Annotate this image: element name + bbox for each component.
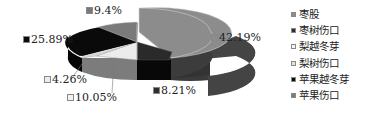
side-pear-wound: [82, 58, 137, 80]
side-jujube-wound: [137, 60, 171, 80]
data-label-jujube-spur: 42.19%: [211, 32, 261, 44]
legend-item-apple-wound: 苹果伤口: [291, 87, 349, 103]
legend-swatch: [291, 61, 296, 66]
chart-legend: 枣股 枣树伤口 梨越冬芽 梨树伤口 苹果越冬芽 苹果伤口: [291, 6, 349, 103]
legend-swatch: [291, 28, 296, 33]
data-label-jujube-wound: 8.21%: [153, 85, 196, 97]
legend-item-jujube-spur: 枣股: [291, 6, 349, 22]
pie-chart: 9.4% 25.89% 42.19% 4.26% 10.05% 8.21% 枣股…: [0, 0, 365, 114]
legend-item-pear-bud: 梨越冬芽: [291, 38, 349, 54]
data-label-pear-bud: 10.05%: [67, 92, 117, 104]
legend-item-jujube-wound: 枣树伤口: [291, 22, 349, 38]
legend-swatch: [291, 12, 296, 17]
legend-swatch: [291, 93, 296, 98]
data-label-apple-wound: 9.4%: [86, 5, 122, 17]
legend-item-apple-bud: 苹果越冬芽: [291, 71, 349, 87]
data-label-pear-wound: 4.26%: [44, 74, 87, 86]
legend-item-pear-wound: 梨树伤口: [291, 55, 349, 71]
legend-swatch: [291, 44, 296, 49]
legend-swatch: [291, 77, 296, 82]
data-label-apple-bud: 25.89%: [23, 34, 73, 46]
